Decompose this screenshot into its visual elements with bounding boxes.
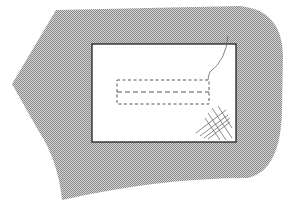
sewing-diagram — [0, 0, 288, 204]
patch-rectangle — [92, 44, 236, 142]
diagram-canvas — [0, 0, 288, 204]
